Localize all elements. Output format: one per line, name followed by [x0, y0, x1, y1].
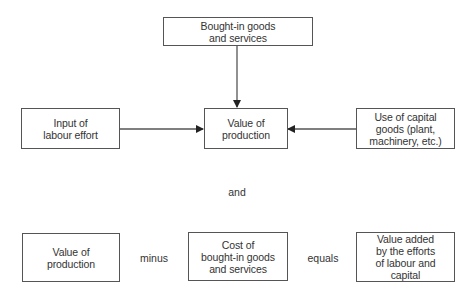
minus-operator-text: minus [134, 252, 174, 264]
value-added-box: Value added by the efforts of labour and… [356, 232, 455, 282]
labour-input-box: Input of labour effort [21, 108, 120, 149]
value-of-production-box: Value of production [204, 108, 288, 149]
equals-operator-text: equals [303, 252, 343, 264]
bought-in-goods-box: Bought-in goods and services [163, 17, 313, 46]
and-connector-text: and [217, 186, 257, 198]
capital-goods-box: Use of capital goods (plant, machinery, … [356, 108, 455, 149]
equation-value-of-production-box: Value of production [22, 233, 120, 282]
cost-of-bought-in-box: Cost of bought-in goods and services [188, 232, 288, 281]
